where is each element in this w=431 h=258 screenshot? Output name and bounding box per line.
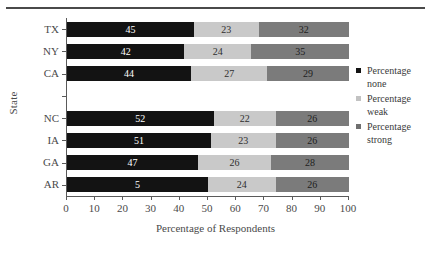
- bar-row-nc: NC522226: [67, 111, 349, 126]
- x-axis-tick-label: 70: [258, 202, 269, 214]
- x-axis-tick-label: 100: [340, 202, 357, 214]
- legend-label-line2: weak: [367, 105, 431, 118]
- bar-segment-strong: 28: [271, 155, 349, 170]
- bar-segment-none: 45: [67, 22, 194, 37]
- y-axis-tick-label: NY: [43, 44, 59, 59]
- bar-row-tx: TX452332: [67, 22, 349, 37]
- y-axis-tick-label: NC: [44, 111, 59, 126]
- bar-segment-weak: 27: [191, 66, 267, 81]
- x-axis-tick: [122, 196, 123, 200]
- x-axis-tick-label: 10: [89, 202, 100, 214]
- x-axis-tick-label: 20: [117, 202, 128, 214]
- legend-item-weak: Percentageweak: [356, 92, 431, 118]
- x-axis-tick-label: 60: [230, 202, 241, 214]
- x-axis-tick: [348, 196, 349, 200]
- bar-segment-strong: 26: [276, 133, 349, 148]
- bar-segment-none: 5: [67, 177, 208, 192]
- legend-item-none: Percentagenone: [356, 64, 431, 90]
- x-axis-tick: [235, 196, 236, 200]
- x-axis-tick: [263, 196, 264, 200]
- bar-segment-weak: 24: [208, 177, 276, 192]
- x-axis-tick: [151, 196, 152, 200]
- y-axis-tick: [62, 118, 66, 119]
- legend-label-line1: Percentage: [367, 64, 431, 77]
- stacked-bar-chart-figure: State TX452332NY422435CA442729NC522226IA…: [0, 0, 431, 258]
- bar-segment-none: 51: [67, 133, 211, 148]
- y-axis-tick: [62, 96, 66, 97]
- y-axis-tick-label: IA: [47, 133, 59, 148]
- y-axis-tick: [62, 29, 66, 30]
- legend-label-line2: none: [367, 77, 431, 90]
- x-axis-tick: [66, 196, 67, 200]
- x-axis-tick-label: 90: [314, 202, 325, 214]
- bar-segment-weak: 22: [214, 111, 276, 126]
- x-axis-tick-label: 80: [286, 202, 297, 214]
- bar-segment-strong: 29: [267, 66, 349, 81]
- x-axis-tick: [320, 196, 321, 200]
- bar-segment-none: 42: [67, 44, 184, 59]
- legend-label-line2: strong: [367, 133, 431, 146]
- x-axis-tick: [94, 196, 95, 200]
- y-axis-tick: [62, 74, 66, 75]
- x-axis-tick-label: 0: [63, 202, 69, 214]
- figure-top-rule: [6, 7, 425, 9]
- bar-segment-strong: 26: [276, 111, 349, 126]
- bar-row-ga: GA472628: [67, 155, 349, 170]
- y-axis-tick: [62, 163, 66, 164]
- bar-segment-weak: 26: [198, 155, 271, 170]
- legend-swatch-strong-icon: [356, 124, 361, 129]
- legend-item-strong: Percentagestrong: [356, 120, 431, 146]
- x-axis-tick-label: 40: [173, 202, 184, 214]
- bar-segment-none: 44: [67, 66, 191, 81]
- legend-label-line1: Percentage: [367, 92, 431, 105]
- y-axis-tick-label: AR: [44, 177, 59, 192]
- x-axis-tick: [207, 196, 208, 200]
- bar-row-ny: NY422435: [67, 44, 349, 59]
- bar-segment-strong: 26: [276, 177, 349, 192]
- x-axis-tick-label: 30: [145, 202, 156, 214]
- y-axis-title: State: [7, 73, 19, 133]
- y-axis-tick: [62, 140, 66, 141]
- bar-segment-strong: 35: [251, 44, 349, 59]
- bar-segment-weak: 23: [194, 22, 259, 37]
- bar-row-ia: IA512326: [67, 133, 349, 148]
- x-axis-tick: [292, 196, 293, 200]
- y-axis-tick: [62, 51, 66, 52]
- bar-segment-weak: 24: [184, 44, 251, 59]
- y-axis-tick: [62, 185, 66, 186]
- x-axis-tick-label: 50: [202, 202, 213, 214]
- bar-segment-weak: 23: [211, 133, 276, 148]
- legend-swatch-none-icon: [356, 68, 361, 73]
- bar-segment-none: 52: [67, 111, 214, 126]
- bar-segment-strong: 32: [259, 22, 349, 37]
- plot-area: TX452332NY422435CA442729NC522226IA512326…: [66, 18, 348, 196]
- x-axis-tick: [179, 196, 180, 200]
- y-axis-tick-label: GA: [43, 155, 59, 170]
- y-axis-tick-label: TX: [44, 22, 59, 37]
- bar-row-ca: CA442729: [67, 66, 349, 81]
- bar-row-empty: [67, 88, 349, 103]
- x-axis-title: Percentage of Respondents: [0, 222, 431, 234]
- y-axis-tick-label: CA: [44, 66, 59, 81]
- bar-segment-none: 47: [67, 155, 198, 170]
- chart-legend: PercentagenonePercentageweakPercentagest…: [356, 64, 431, 148]
- legend-label-line1: Percentage: [367, 120, 431, 133]
- bar-row-ar: AR52426: [67, 177, 349, 192]
- legend-swatch-weak-icon: [356, 96, 361, 101]
